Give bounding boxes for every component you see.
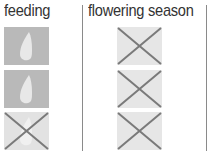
cross-icon <box>117 70 162 108</box>
flowering-cell-1 <box>117 27 162 65</box>
cross-icon <box>117 112 162 150</box>
flowering-cell-3 <box>117 112 162 150</box>
column-divider <box>82 5 83 151</box>
flowering-cell-2 <box>117 70 162 108</box>
feeding-cell-1 <box>4 27 49 65</box>
column-divider <box>206 5 207 151</box>
feeding-cell-2 <box>4 70 49 108</box>
water-drop-icon <box>4 70 49 108</box>
cross-icon <box>117 27 162 65</box>
feeding-cell-3 <box>4 112 49 150</box>
column-header-flowering-season: flowering season <box>88 1 194 21</box>
column-header-feeding: feeding <box>4 1 50 21</box>
water-drop-crossed-icon <box>4 112 49 150</box>
water-drop-icon <box>4 27 49 65</box>
